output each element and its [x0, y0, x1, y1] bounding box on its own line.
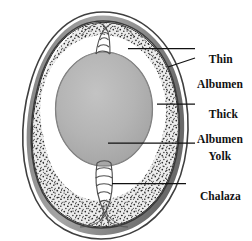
label-chalaza-line1: Chalaza	[200, 190, 241, 202]
label-chalaza: Chalaza	[188, 177, 241, 215]
label-yolk: Yolk	[197, 137, 231, 175]
label-yolk-line1: Yolk	[208, 150, 231, 162]
egg-anatomy-diagram: Thin Albumen Thick Albumen Yolk Chalaza	[0, 0, 252, 241]
yolk-oval	[56, 52, 153, 166]
label-thick-albumen-line1: Thick	[209, 108, 238, 120]
label-thin-albumen-line2: Albumen	[197, 78, 243, 91]
label-thin-albumen-line1: Thin	[209, 53, 233, 65]
